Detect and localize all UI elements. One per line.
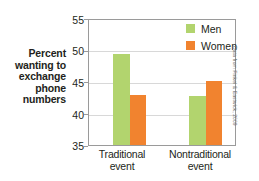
bar-nontraditional-men	[189, 96, 206, 145]
y-tick-label-45: 45	[44, 78, 84, 88]
source-credit: Data from Finkel & Eastwick, 2009	[232, 46, 238, 146]
legend-item-women: Women	[186, 38, 237, 53]
y-axis-title: Percent wanting to exchange phone number…	[0, 48, 66, 106]
chart-figure: Percent wanting to exchange phone number…	[0, 0, 259, 181]
bar-traditional-women	[130, 95, 146, 145]
legend-swatch-women-icon	[186, 41, 195, 50]
legend: Men Women	[186, 21, 237, 55]
x-label-traditional: Traditional event	[86, 149, 158, 172]
legend-swatch-men-icon	[186, 24, 195, 33]
bar-traditional-men	[113, 54, 130, 145]
y-tick-label-55: 55	[44, 15, 84, 25]
plot-area: Men Women	[88, 19, 236, 146]
x-label-nontraditional-line-2: event	[160, 161, 240, 173]
x-label-nontraditional-line-1: Nontraditional	[160, 149, 240, 161]
x-label-nontraditional: Nontraditional event	[160, 149, 240, 172]
x-label-traditional-line-2: event	[86, 161, 158, 173]
y-axis-title-line-5: numbers	[0, 94, 66, 106]
y-tick-label-40: 40	[44, 110, 84, 120]
x-label-traditional-line-1: Traditional	[86, 149, 158, 161]
y-tick-mark-35	[84, 146, 88, 147]
y-tick-label-50: 50	[44, 46, 84, 56]
y-tick-label-35: 35	[44, 141, 84, 151]
bar-nontraditional-women	[206, 81, 222, 145]
legend-item-men: Men	[186, 21, 237, 36]
legend-label-men: Men	[201, 23, 221, 35]
